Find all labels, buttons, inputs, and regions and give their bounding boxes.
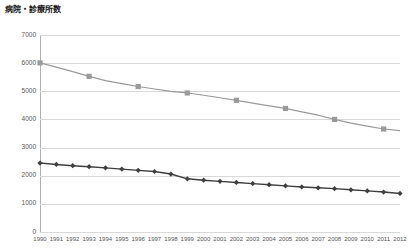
series-1 bbox=[37, 60, 400, 131]
data-point-1995 bbox=[119, 167, 124, 172]
data-point-2004 bbox=[266, 182, 271, 187]
data-point-1993 bbox=[86, 74, 91, 79]
series-line bbox=[40, 163, 400, 193]
data-point-1991 bbox=[54, 162, 59, 167]
data-point-1996 bbox=[136, 84, 141, 89]
data-point-2008 bbox=[332, 117, 337, 122]
data-point-1992 bbox=[70, 163, 75, 168]
data-point-2006 bbox=[299, 184, 304, 189]
data-point-2011 bbox=[381, 189, 386, 194]
data-point-2002 bbox=[234, 180, 239, 185]
data-point-1996 bbox=[136, 168, 141, 173]
data-point-2003 bbox=[250, 181, 255, 186]
data-point-1993 bbox=[86, 164, 91, 169]
data-point-2001 bbox=[217, 179, 222, 184]
series-layer bbox=[0, 0, 408, 252]
data-point-2011 bbox=[381, 126, 386, 131]
data-point-1990 bbox=[37, 60, 42, 65]
data-point-2010 bbox=[365, 188, 370, 193]
data-point-2009 bbox=[348, 187, 353, 192]
data-point-2000 bbox=[201, 178, 206, 183]
data-point-2005 bbox=[283, 183, 288, 188]
data-point-2002 bbox=[234, 98, 239, 103]
series-line bbox=[40, 63, 400, 131]
data-point-1994 bbox=[103, 165, 108, 170]
data-point-1999 bbox=[185, 176, 190, 181]
data-point-1998 bbox=[168, 171, 173, 176]
data-point-2012 bbox=[397, 191, 402, 196]
data-point-2008 bbox=[332, 186, 337, 191]
chart-container: 病院・診療所数 01000200030004000500060007000 19… bbox=[0, 0, 408, 252]
series-2 bbox=[37, 160, 402, 196]
data-point-1990 bbox=[37, 160, 42, 165]
data-point-2005 bbox=[283, 106, 288, 111]
data-point-1997 bbox=[152, 169, 157, 174]
data-point-2007 bbox=[316, 185, 321, 190]
data-point-1999 bbox=[185, 90, 190, 95]
